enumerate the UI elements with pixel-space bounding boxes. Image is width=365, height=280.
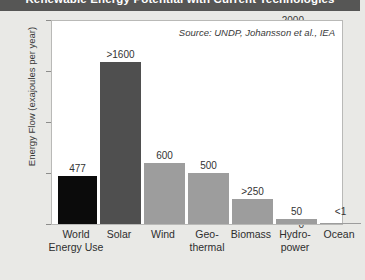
x-label-line-2: thermal: [168, 241, 246, 254]
x-label-line-2: Energy Use: [37, 241, 115, 254]
source-annotation: Source: UNDP, Johansson et al., IEA: [179, 27, 335, 38]
bar-value-geothermal: 500: [188, 160, 229, 171]
chart-title-band: Renewable Energy Potential with Current …: [0, 0, 360, 11]
bar-value-wind: 600: [144, 150, 185, 161]
bar-ocean[interactable]: [320, 223, 361, 224]
bar-biomass[interactable]: [232, 199, 273, 224]
bar-value-biomass: >250: [232, 186, 273, 197]
bar-world-energy-use[interactable]: [58, 176, 97, 224]
chart-title: Renewable Energy Potential with Current …: [0, 0, 360, 5]
x-label-line-1: Ocean: [300, 228, 365, 241]
bar-wind[interactable]: [144, 163, 185, 224]
y-axis-title: Energy Flow (exajoules per year): [26, 0, 37, 197]
x-label-ocean: Ocean: [300, 228, 365, 241]
plot-area: Source: UNDP, Johansson et al., IEA 477 …: [51, 20, 343, 225]
bar-geothermal[interactable]: [188, 173, 229, 224]
bar-value-world-energy-use: 477: [58, 163, 97, 174]
x-label-line-2: power: [256, 241, 334, 254]
bar-solar[interactable]: [100, 62, 141, 224]
bar-hydropower[interactable]: [276, 219, 317, 224]
bar-value-ocean: <1: [320, 206, 361, 217]
bar-value-hydropower: 50: [276, 206, 317, 217]
bar-value-solar: >1600: [100, 49, 141, 60]
